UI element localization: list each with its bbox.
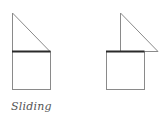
triangle-before xyxy=(13,13,51,52)
square-before xyxy=(13,52,51,90)
figure-before xyxy=(12,13,51,90)
square-after xyxy=(107,52,145,90)
caption-label: Sliding xyxy=(11,100,52,113)
figure-after xyxy=(106,13,158,90)
triangle-after xyxy=(121,13,159,52)
